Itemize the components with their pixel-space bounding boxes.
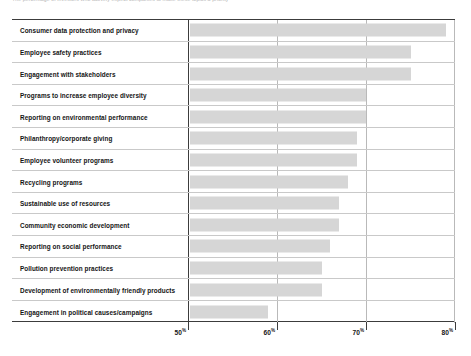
bar-track <box>190 301 456 323</box>
bar <box>190 24 447 37</box>
bar-track <box>190 85 456 106</box>
chart-row: Pollution prevention practices <box>12 258 455 280</box>
x-axis: 50%60%70%80% <box>0 322 471 356</box>
bar-track <box>190 236 456 257</box>
category-label: Employee volunteer programs <box>20 156 113 163</box>
chart-row: Philanthropy/corporate giving <box>12 128 455 150</box>
bar-track <box>190 42 456 63</box>
chart-row: Engagement in political causes/campaigns <box>12 301 455 323</box>
bar <box>190 197 340 210</box>
bar-track <box>190 171 456 192</box>
category-label: Consumer data protection and privacy <box>20 27 139 34</box>
bar-track <box>190 150 456 171</box>
category-label: Employee safety practices <box>20 48 102 55</box>
bar <box>190 45 411 58</box>
chart-row: Development of environmentally friendly … <box>12 279 455 301</box>
axis-tick-label: 60% <box>264 328 277 336</box>
axis-tick <box>277 322 278 330</box>
bar-track <box>190 20 456 41</box>
category-label: Recycling programs <box>20 178 82 185</box>
bar <box>190 153 358 166</box>
chart-row: Employee volunteer programs <box>12 150 455 172</box>
bar-track <box>190 128 456 149</box>
bar-track <box>190 63 456 84</box>
bar <box>190 110 367 123</box>
chart-row: Engagement with stakeholders <box>12 63 455 85</box>
bar-track <box>190 258 456 279</box>
bar <box>190 67 411 80</box>
chart-row: Reporting on environmental performance <box>12 106 455 128</box>
horizontal-bar-chart: Consumer data protection and privacyEmpl… <box>12 19 455 322</box>
percent-sign: % <box>182 328 186 333</box>
axis-tick-label: 80% <box>442 328 455 336</box>
category-label: Philanthropy/corporate giving <box>20 135 112 142</box>
bar-track <box>190 193 456 214</box>
category-label: Programs to increase employee diversity <box>20 92 147 99</box>
chart-row: Sustainable use of resources <box>12 193 455 215</box>
percent-sign: % <box>360 328 364 333</box>
axis-tick <box>366 322 367 330</box>
percent-sign: % <box>271 328 275 333</box>
bar <box>190 89 367 102</box>
category-label: Reporting on environmental performance <box>20 113 148 120</box>
bar <box>190 218 340 231</box>
bar-track <box>190 214 456 235</box>
axis-tick-label: 70% <box>353 328 366 336</box>
category-label: Community economic development <box>20 221 129 228</box>
category-label: Reporting on social performance <box>20 243 122 250</box>
bar-track <box>190 279 456 300</box>
bar <box>190 240 331 253</box>
category-label: Development of environmentally friendly … <box>20 286 175 293</box>
chart-row: Employee safety practices <box>12 42 455 64</box>
bar <box>190 283 322 296</box>
axis-tick <box>188 322 189 330</box>
chart-row: Community economic development <box>12 214 455 236</box>
category-label: Sustainable use of resources <box>20 200 110 207</box>
bar <box>190 175 349 188</box>
chart-row: Recycling programs <box>12 171 455 193</box>
chart-row: Consumer data protection and privacy <box>12 20 455 42</box>
chart-row: Reporting on social performance <box>12 236 455 258</box>
chart-rows: Consumer data protection and privacyEmpl… <box>12 20 455 323</box>
bar <box>190 132 358 145</box>
bar-track <box>190 106 456 127</box>
category-label: Engagement with stakeholders <box>20 70 116 77</box>
percent-sign: % <box>449 328 453 333</box>
axis-tick-label: 50% <box>175 328 188 336</box>
category-label: Engagement in political causes/campaigns <box>20 308 152 315</box>
figure-caption: The percentage of investors who actively… <box>12 0 462 2</box>
chart-row: Programs to increase employee diversity <box>12 85 455 107</box>
bar <box>190 305 269 318</box>
bar <box>190 262 322 275</box>
category-label: Pollution prevention practices <box>20 265 113 272</box>
axis-tick <box>455 322 456 330</box>
